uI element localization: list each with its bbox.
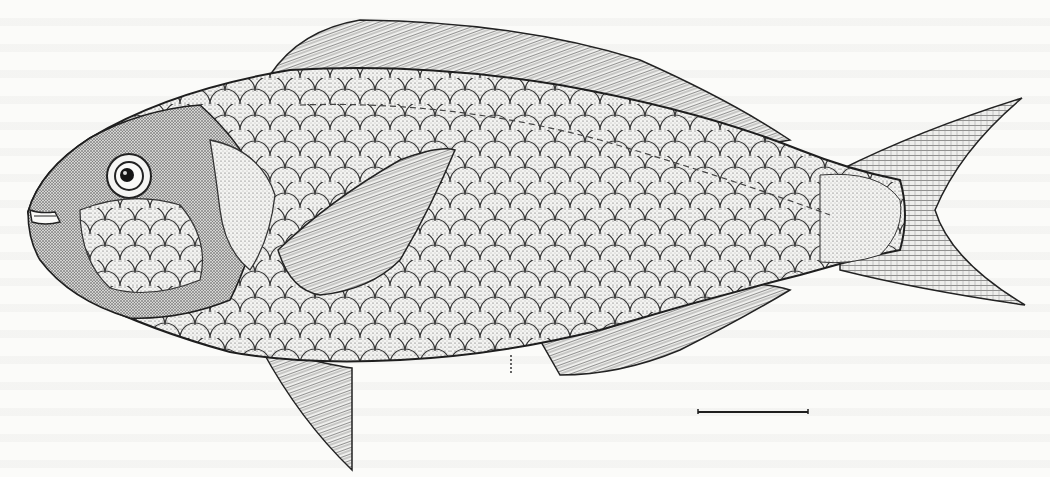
figure-plate — [0, 0, 1050, 477]
scale-bar — [0, 0, 1050, 477]
